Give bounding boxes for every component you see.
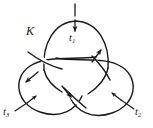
knot-label-K: K: [26, 25, 34, 37]
orientation-arrow-left: [26, 72, 38, 82]
lower-right-lobe-arc: [56, 58, 133, 115]
knot-label-K-base: K: [26, 24, 34, 38]
knot-diagram-svg: [0, 0, 153, 128]
leader-line-t3-arrow: [27, 96, 36, 103]
crossing-left-erase-2: [32, 52, 62, 69]
knot-figure: K t1 t2 t3: [0, 0, 153, 128]
tangle-label-t1-subscript: 1: [72, 37, 75, 44]
tangle-label-t2: t2: [135, 107, 141, 118]
leader-line-t3-stem: [15, 103, 27, 111]
tangle-label-t1: t1: [69, 33, 75, 44]
tangle-label-t2-subscript: 2: [138, 111, 141, 118]
top-lobe-left-tail: [44, 70, 62, 92]
tangle-label-t3: t3: [3, 107, 9, 118]
tangle-label-t3-subscript: 3: [6, 111, 9, 118]
leader-line-t2-arrow: [112, 93, 121, 100]
